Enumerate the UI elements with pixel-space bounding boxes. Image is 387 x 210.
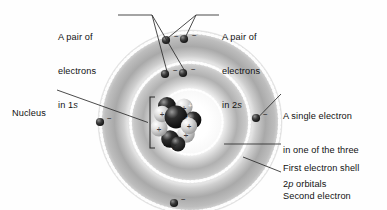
label-pair-2s-prefix: in 2 — [222, 100, 237, 110]
label-pair-2s-line3: in 2s — [222, 100, 260, 111]
label-pair-1s-orbital: s — [73, 100, 78, 110]
svg-text:−: − — [181, 195, 186, 204]
label-second-electron-shell: Second electron shell — [283, 168, 351, 210]
svg-text:+: + — [157, 125, 162, 134]
atom-diagram-figure: + + + + + + + + − — [0, 0, 387, 210]
label-nucleus: Nucleus — [12, 85, 46, 142]
svg-text:−: − — [192, 31, 197, 40]
label-single-2p-line1: A single electron — [283, 111, 359, 122]
svg-text:−: − — [107, 114, 112, 123]
label-pair-1s-line1: A pair of — [58, 32, 96, 43]
label-nucleus-line1: Nucleus — [12, 108, 46, 119]
label-pair-2s: A pair of electrons in 2s — [222, 9, 260, 134]
svg-text:+: + — [188, 102, 192, 109]
label-pair-1s-prefix: in 1 — [58, 100, 73, 110]
label-pair-2s-orbital: s — [237, 100, 242, 110]
svg-text:−: − — [173, 66, 178, 75]
neutron-particle — [171, 137, 186, 152]
svg-text:−: − — [191, 65, 196, 74]
svg-text:+: + — [160, 110, 164, 119]
label-pair-1s-line2: electrons — [58, 66, 96, 77]
svg-text:+: + — [186, 113, 190, 122]
label-pair-2s-line1: A pair of — [222, 32, 260, 43]
label-second-electron-shell-line1: Second electron — [283, 191, 351, 202]
svg-text:+: + — [187, 122, 191, 131]
label-pair-1s-line3: in 1s — [58, 100, 96, 111]
label-pair-2s-line2: electrons — [222, 66, 260, 77]
label-pair-1s: A pair of electrons in 1s — [58, 9, 96, 134]
svg-text:−: − — [174, 32, 179, 41]
